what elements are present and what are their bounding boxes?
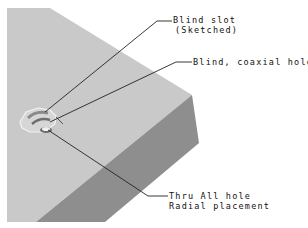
- callout-blind-slot-line2: (Sketched): [173, 25, 238, 35]
- callout-blind-slot-line1: Blind slot: [173, 15, 238, 25]
- callout-thru-all-hole-line1: Thru All hole: [169, 191, 270, 201]
- callout-blind-coaxial-hole-line1: Blind, coaxial hole: [193, 57, 308, 67]
- callout-blind-coaxial-hole: Blind, coaxial hole: [193, 57, 308, 67]
- callout-thru-all-hole: Thru All hole Radial placement: [169, 191, 270, 211]
- callout-thru-all-hole-line2: Radial placement: [169, 201, 270, 211]
- callout-blind-slot: Blind slot (Sketched): [173, 15, 238, 35]
